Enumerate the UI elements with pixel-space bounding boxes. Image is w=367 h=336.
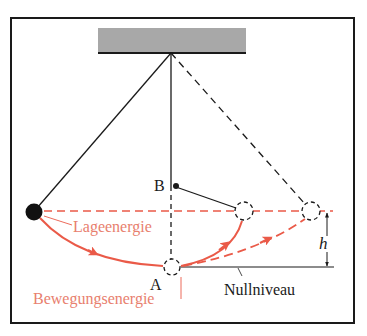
string-left — [37, 53, 171, 208]
bob-position-a — [164, 259, 180, 275]
pendulum-diagram: B A Lageenergie Bewegungsenergie Nullniv… — [0, 0, 367, 336]
string-short-from-peg — [176, 187, 236, 208]
label-kinetic-energy: Bewegungsenergie — [33, 290, 154, 308]
bob-position-long — [302, 202, 320, 220]
zero-level-leader — [238, 268, 242, 276]
label-potential-energy: Lageenergie — [73, 218, 152, 236]
string-right-dashed — [171, 53, 305, 204]
label-height: h — [319, 234, 328, 253]
bob-position-short — [235, 202, 253, 220]
label-b: B — [154, 177, 165, 194]
potential-energy-leader — [44, 216, 72, 225]
peg-b — [173, 183, 179, 189]
ceiling-block — [98, 28, 246, 52]
swing-arc-up-long-dashed — [183, 219, 305, 266]
frame-border — [11, 18, 354, 323]
label-zero-level: Nullniveau — [224, 281, 295, 298]
pendulum-bob — [26, 204, 43, 221]
